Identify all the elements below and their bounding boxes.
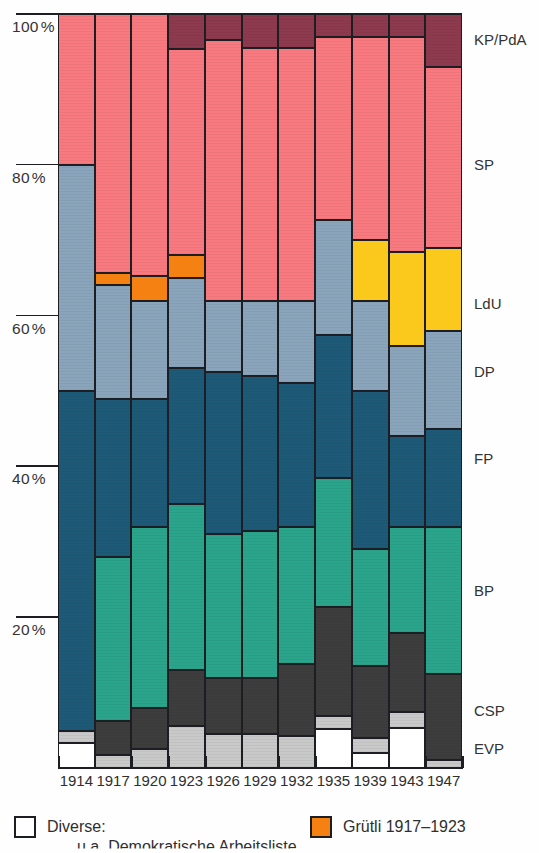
segment-evp-1939[interactable] (353, 738, 388, 753)
segment-bp-1926[interactable] (206, 534, 241, 677)
segment-fp-1935[interactable] (316, 335, 351, 478)
segment-fp-1920[interactable] (132, 399, 167, 527)
segment-ldu-1943[interactable] (390, 252, 425, 346)
segment-dp-1939[interactable] (353, 301, 388, 391)
segment-bp-1923[interactable] (169, 504, 204, 670)
bar-1917[interactable] (95, 14, 132, 768)
segment-sp-1914[interactable] (59, 14, 94, 165)
segment-csp-1920[interactable] (132, 708, 167, 749)
segment-bp-1929[interactable] (243, 531, 278, 678)
segment-sp-1926[interactable] (206, 40, 241, 300)
segment-kp-1926[interactable] (206, 14, 241, 40)
segment-dp-1923[interactable] (169, 278, 204, 368)
segment-sp-1947[interactable] (426, 67, 461, 248)
legend-item-grutli[interactable]: Grütli 1917–1923 (310, 816, 466, 838)
bar-1923[interactable] (168, 14, 205, 768)
segment-evp-1917[interactable] (96, 755, 131, 768)
segment-bp-1947[interactable] (426, 527, 461, 674)
segment-dp-1943[interactable] (390, 346, 425, 436)
legend-swatch-grutli (310, 816, 332, 838)
segment-kp-1939[interactable] (353, 14, 388, 37)
segment-grutli-1920[interactable] (132, 276, 167, 300)
bar-1943[interactable] (389, 14, 426, 768)
segment-csp-1932[interactable] (279, 664, 314, 736)
segment-evp-1923[interactable] (169, 726, 204, 768)
segment-fp-1939[interactable] (353, 391, 388, 549)
segment-kp-1932[interactable] (279, 14, 314, 48)
segment-dp-1935[interactable] (316, 220, 351, 335)
segment-csp-1939[interactable] (353, 666, 388, 738)
segment-sp-1917[interactable] (96, 14, 131, 273)
segment-kp-1923[interactable] (169, 14, 204, 49)
segment-evp-1943[interactable] (390, 712, 425, 728)
segment-fp-1914[interactable] (59, 391, 94, 731)
segment-csp-1923[interactable] (169, 670, 204, 726)
y-tick-80 (16, 164, 58, 166)
segment-dp-1947[interactable] (426, 331, 461, 429)
bar-1920[interactable] (131, 14, 168, 768)
legend-item-diverse[interactable]: Diverse: (14, 816, 106, 838)
bar-1914[interactable] (58, 14, 95, 768)
segment-sp-1943[interactable] (390, 37, 425, 252)
segment-kp-1935[interactable] (316, 14, 351, 37)
x-axis-label-1920: 1920 (131, 772, 168, 789)
segment-sp-1939[interactable] (353, 37, 388, 241)
segment-sp-1932[interactable] (279, 48, 314, 301)
segment-evp-1935[interactable] (316, 716, 351, 729)
segment-bp-1939[interactable] (353, 549, 388, 666)
segment-bp-1935[interactable] (316, 478, 351, 606)
segment-csp-1926[interactable] (206, 678, 241, 735)
segment-kp-1929[interactable] (243, 14, 278, 48)
segment-dp-1917[interactable] (96, 285, 131, 398)
segment-fp-1943[interactable] (390, 436, 425, 526)
segment-evp-1926[interactable] (206, 734, 241, 768)
bar-1939[interactable] (352, 14, 389, 768)
segment-bp-1943[interactable] (390, 527, 425, 633)
segment-fp-1947[interactable] (426, 429, 461, 527)
bar-1926[interactable] (205, 14, 242, 768)
segment-dp-1926[interactable] (206, 301, 241, 373)
segment-dp-1920[interactable] (132, 301, 167, 399)
segment-ldu-1939[interactable] (353, 240, 388, 300)
segment-diverse-1914[interactable] (59, 743, 94, 768)
segment-diverse-1935[interactable] (316, 729, 351, 768)
segment-dp-1929[interactable] (243, 301, 278, 376)
segment-sp-1929[interactable] (243, 48, 278, 301)
segment-sp-1923[interactable] (169, 49, 204, 256)
bar-1932[interactable] (278, 14, 315, 768)
segment-evp-1929[interactable] (243, 734, 278, 768)
bar-1935[interactable] (315, 14, 352, 768)
segment-csp-1935[interactable] (316, 607, 351, 716)
segment-dp-1914[interactable] (59, 165, 94, 391)
segment-fp-1932[interactable] (279, 383, 314, 526)
segment-diverse-1939[interactable] (353, 753, 388, 768)
y-tick-unit: % (41, 18, 55, 35)
segment-evp-1932[interactable] (279, 736, 314, 768)
segment-grutli-1917[interactable] (96, 273, 131, 285)
segment-diverse-1943[interactable] (390, 728, 425, 768)
segment-ldu-1947[interactable] (426, 248, 461, 331)
segment-csp-1929[interactable] (243, 678, 278, 735)
segment-bp-1932[interactable] (279, 527, 314, 664)
bar-1947[interactable] (425, 14, 462, 768)
segment-sp-1920[interactable] (132, 14, 167, 276)
bar-1929[interactable] (242, 14, 279, 768)
segment-csp-1917[interactable] (96, 721, 131, 755)
segment-fp-1917[interactable] (96, 399, 131, 557)
segment-bp-1917[interactable] (96, 557, 131, 721)
segment-kp-1947[interactable] (426, 14, 461, 67)
segment-sp-1935[interactable] (316, 37, 351, 220)
segment-fp-1929[interactable] (243, 376, 278, 531)
segment-fp-1926[interactable] (206, 372, 241, 534)
segment-evp-1914[interactable] (59, 731, 94, 743)
segment-bp-1920[interactable] (132, 527, 167, 709)
segment-evp-1947[interactable] (426, 760, 461, 768)
segment-csp-1947[interactable] (426, 674, 461, 761)
y-tick-100 (16, 13, 58, 15)
segment-dp-1932[interactable] (279, 301, 314, 384)
segment-fp-1923[interactable] (169, 368, 204, 504)
segment-evp-1920[interactable] (132, 749, 167, 768)
segment-csp-1943[interactable] (390, 633, 425, 712)
segment-kp-1943[interactable] (390, 14, 425, 37)
segment-grutli-1923[interactable] (169, 255, 204, 278)
